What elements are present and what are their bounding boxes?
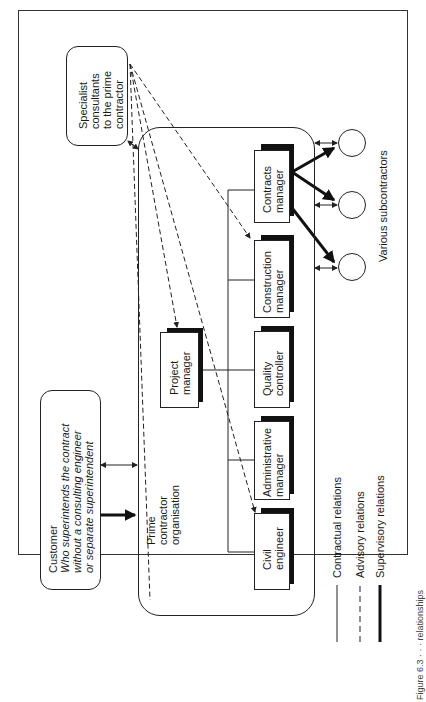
legend-advisory-label: Advisory relations xyxy=(354,491,366,578)
contracts-manager-box: Contracts manager xyxy=(254,150,290,223)
subcontractor-circle-1 xyxy=(338,129,366,157)
project-manager-label: Project manager xyxy=(168,352,192,395)
construction-manager-label: Construction manager xyxy=(261,251,285,313)
specialist-label: Specialist consultants to the prime cont… xyxy=(77,71,125,129)
civil-engineer-box: Civil engineer xyxy=(254,513,290,590)
civil-engineer-label: Civil engineer xyxy=(261,527,285,570)
subcontractors-label: Various subcontractors xyxy=(377,150,389,262)
specialist-consultants-box: Specialist consultants to the prime cont… xyxy=(66,46,128,146)
administrative-manager-label: Administrative manager xyxy=(261,428,285,497)
administrative-manager-box: Administrative manager xyxy=(254,421,290,500)
customer-box: Customer Who superintends the contract w… xyxy=(40,390,101,590)
subcontract-arrows xyxy=(315,143,337,268)
prime-contractor-label: Prime contractor organisation xyxy=(145,485,181,545)
construction-manager-box: Construction manager xyxy=(254,240,290,318)
quality-controller-label: Quality controller xyxy=(261,351,285,396)
contracts-manager-label: Contracts manager xyxy=(261,166,285,213)
project-manager-box: Project manager xyxy=(160,332,199,408)
subcontractor-circle-2 xyxy=(338,191,366,219)
legend-supervisory-label: Supervisory relations xyxy=(374,475,386,578)
subcontractor-circle-3 xyxy=(338,253,366,281)
customer-label: Customer Who superintends the contract w… xyxy=(47,424,95,573)
quality-controller-box: Quality controller xyxy=(254,331,290,408)
legend-contractual-label: Contractual relations xyxy=(331,477,343,578)
figure-caption: Figure 6.3 · · · relationships xyxy=(414,590,426,700)
